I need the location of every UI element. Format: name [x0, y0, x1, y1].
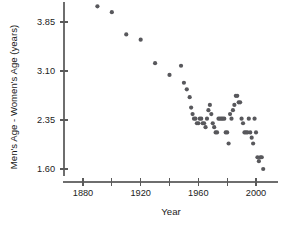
x-tick-label: 2000 [246, 188, 266, 198]
data-point [167, 73, 171, 77]
data-point [212, 125, 216, 129]
x-axis-group: 1880192019602000 [63, 178, 278, 198]
data-point [139, 38, 143, 42]
data-point [211, 121, 215, 125]
data-point [196, 121, 200, 125]
data-point [241, 121, 245, 125]
data-point [202, 121, 206, 125]
data-point [231, 108, 235, 112]
data-point [215, 130, 219, 134]
data-point [251, 141, 255, 145]
data-point [238, 100, 242, 104]
y-tick-label: 1.60 [37, 164, 55, 174]
y-axis-ticks: 1.602.353.103.85 [37, 17, 68, 174]
data-point [124, 32, 128, 36]
y-axis-title: Men's Age - Women's Age (years) [8, 25, 19, 169]
x-tick-label: 1960 [188, 188, 208, 198]
data-point [229, 117, 233, 121]
chart-canvas: 1.602.353.103.85 1880192019602000 Year M… [0, 0, 291, 225]
x-tick-label: 1880 [73, 188, 93, 198]
data-point [179, 64, 183, 68]
data-point [235, 94, 239, 98]
data-point [247, 117, 251, 121]
y-tick-label: 3.10 [37, 66, 55, 76]
data-point [260, 155, 264, 159]
data-points-layer [95, 0, 265, 171]
data-point [228, 112, 232, 116]
data-point [232, 103, 236, 107]
data-point [95, 4, 99, 8]
data-point [209, 112, 213, 116]
data-point [254, 130, 258, 134]
x-tick-label: 1920 [130, 188, 150, 198]
y-tick-label: 2.35 [37, 115, 55, 125]
y-axis-group: 1.602.353.103.85 [37, 2, 68, 176]
data-point [110, 10, 114, 14]
data-point [153, 61, 157, 65]
data-point [199, 117, 203, 121]
data-point [203, 125, 207, 129]
scatter-chart: 1.602.353.103.85 1880192019602000 Year M… [0, 0, 291, 225]
data-point [225, 130, 229, 134]
data-point [257, 159, 261, 163]
data-point [222, 117, 226, 121]
data-point [185, 87, 189, 91]
data-point [248, 130, 252, 134]
data-point [261, 167, 265, 171]
data-point [189, 105, 193, 109]
data-point [239, 117, 243, 121]
data-point [182, 81, 186, 85]
x-axis-title: Year [161, 206, 181, 217]
data-point [190, 112, 194, 116]
data-point [193, 117, 197, 121]
data-point [227, 141, 231, 145]
y-tick-label: 3.85 [37, 17, 55, 27]
data-point [250, 136, 254, 140]
data-point [252, 117, 256, 121]
x-axis-ticks: 1880192019602000 [73, 178, 266, 198]
data-point [205, 117, 209, 121]
data-point [206, 108, 210, 112]
data-point [188, 95, 192, 99]
data-point [208, 103, 212, 107]
